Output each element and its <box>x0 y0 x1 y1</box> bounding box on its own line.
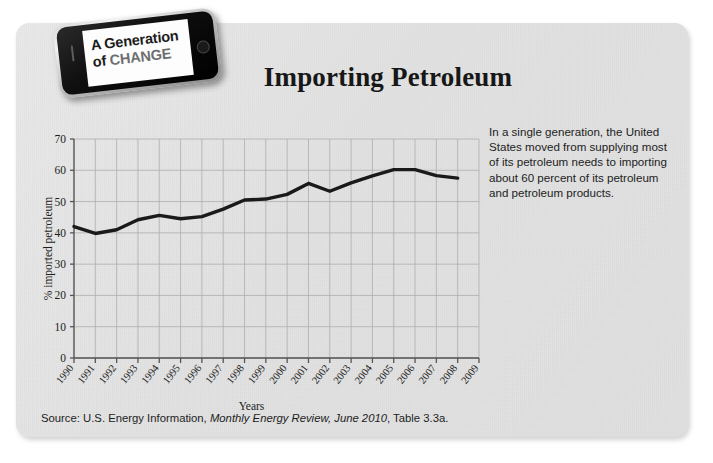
phone-body: A Generation of CHANGE <box>52 7 222 99</box>
x-tick-label: 1991 <box>75 362 97 385</box>
x-tick-label: 1994 <box>139 362 161 386</box>
x-tick-label: 2002 <box>310 362 332 385</box>
source-suffix: , Table 3.3a. <box>387 412 448 424</box>
y-tick-label: 30 <box>55 258 67 270</box>
phone-home-button-icon <box>196 39 210 53</box>
generation-of-change-badge: A Generation of CHANGE <box>48 8 228 100</box>
source-prefix: Source: U.S. Energy Information, <box>41 412 210 424</box>
x-tick-label: 2003 <box>331 362 353 385</box>
x-tick-label: 2009 <box>459 362 481 385</box>
x-axis-label: Years <box>239 400 265 412</box>
x-tick-label: 2001 <box>288 362 310 385</box>
x-tick-label: 1995 <box>161 362 183 385</box>
y-tick-label: 40 <box>55 227 67 239</box>
y-tick-label: 10 <box>55 321 67 333</box>
y-tick-label: 50 <box>55 196 67 208</box>
chart-y-tick-labels: 010203040506070 <box>55 133 67 364</box>
smartphone-icon: A Generation of CHANGE <box>52 7 222 99</box>
page-title: Importing Petroleum <box>238 62 538 93</box>
badge-text: A Generation of CHANGE <box>90 27 181 70</box>
source-citation: Source: U.S. Energy Information, Monthly… <box>41 412 448 424</box>
x-tick-label: 1997 <box>203 362 225 385</box>
x-tick-label: 2005 <box>374 362 396 385</box>
x-tick-label: 2007 <box>416 362 438 385</box>
chart-x-tick-labels: 1990199119921993199419951996199719981999… <box>54 362 481 386</box>
y-tick-label: 60 <box>55 164 67 176</box>
x-tick-label: 2000 <box>267 362 289 385</box>
x-tick-label: 1992 <box>97 362 119 385</box>
x-tick-label: 2008 <box>438 362 460 385</box>
source-italic: Monthly Energy Review, June 2010 <box>210 412 387 424</box>
chart-svg: 010203040506070 199019911992199319941995… <box>40 128 485 413</box>
line-chart: 010203040506070 199019911992199319941995… <box>40 128 485 413</box>
phone-screen: A Generation of CHANGE <box>82 19 194 87</box>
x-tick-label: 1999 <box>246 362 268 385</box>
badge-line-2-prefix: of <box>92 52 111 70</box>
y-axis-label: % imported petroleum <box>42 197 55 301</box>
side-note-text: In a single generation, the United State… <box>489 124 679 200</box>
y-tick-label: 0 <box>60 352 66 364</box>
phone-bezel: A Generation of CHANGE <box>56 10 220 95</box>
y-tick-label: 70 <box>55 133 67 145</box>
x-tick-label: 1990 <box>54 362 76 385</box>
x-tick-label: 1996 <box>182 362 204 385</box>
chart-tick-marks <box>70 139 479 363</box>
x-tick-label: 1993 <box>118 362 140 385</box>
x-tick-label: 2006 <box>395 362 417 385</box>
x-tick-label: 1998 <box>225 362 247 385</box>
x-tick-label: 2004 <box>352 362 374 386</box>
phone-side-button <box>71 45 75 61</box>
y-tick-label: 20 <box>55 289 67 301</box>
